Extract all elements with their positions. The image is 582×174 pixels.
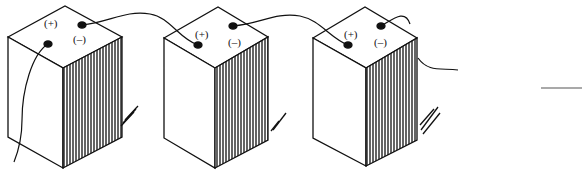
- battery-2: [164, 7, 286, 168]
- battery-2-negative-label: (–): [228, 37, 241, 48]
- battery-3-positive-label: (+): [344, 29, 358, 40]
- battery-2-positive-label: (+): [195, 29, 209, 40]
- battery-1-negative-label: (–): [73, 34, 86, 45]
- series-battery-diagram: [0, 0, 582, 174]
- battery-1: [8, 6, 138, 168]
- battery-3: [313, 7, 440, 166]
- battery-1-positive-label: (+): [44, 18, 58, 29]
- battery-3-negative-label: (–): [374, 37, 387, 48]
